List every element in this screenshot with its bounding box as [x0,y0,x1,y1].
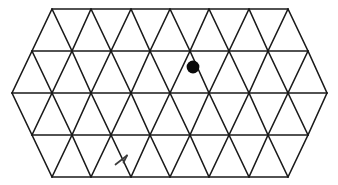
triangular-grid-diagram [0,0,338,185]
figure-root [0,0,338,185]
filled-dot-marker [187,61,200,74]
